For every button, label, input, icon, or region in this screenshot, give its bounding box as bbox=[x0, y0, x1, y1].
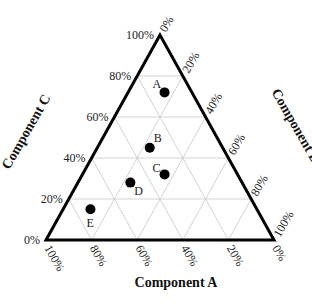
axis-c-tick: 40% bbox=[64, 151, 86, 165]
axis-c-tick: 60% bbox=[86, 110, 108, 124]
axis-a-tick: 20% bbox=[224, 243, 247, 269]
axis-c-tick: 100% bbox=[126, 28, 154, 42]
data-point bbox=[85, 204, 95, 214]
axis-b-tick: 100% bbox=[270, 208, 296, 239]
axis-c-tick: 80% bbox=[109, 69, 131, 83]
axis-a-tick: 40% bbox=[178, 243, 201, 269]
axis-b-tick: 80% bbox=[248, 172, 271, 198]
grid-line bbox=[114, 117, 182, 240]
grid-line bbox=[137, 117, 205, 240]
ternary-chart: 0%20%40%60%80%100%0%20%40%60%80%100%100%… bbox=[0, 0, 312, 304]
axis-b-title: Component B bbox=[269, 86, 312, 165]
grid-line bbox=[228, 199, 251, 240]
axis-b-tick: 40% bbox=[202, 90, 225, 116]
point-label: A bbox=[153, 77, 162, 91]
axis-c-tick: 20% bbox=[41, 192, 63, 206]
point-label: C bbox=[153, 161, 161, 175]
axis-b-tick: 20% bbox=[179, 49, 202, 75]
axis-a-tick: 60% bbox=[133, 243, 156, 269]
axis-a-tick: 100% bbox=[41, 243, 67, 274]
axis-a-tick: 80% bbox=[87, 243, 110, 269]
axis-a-title: Component A bbox=[135, 275, 219, 290]
data-point bbox=[160, 169, 170, 179]
axis-c-title: Component C bbox=[0, 92, 54, 172]
axis-a-tick: 0% bbox=[269, 243, 289, 264]
point-label: D bbox=[134, 184, 143, 198]
point-label: B bbox=[154, 131, 162, 145]
axis-b-tick: 0% bbox=[156, 14, 176, 35]
ternary-plot: 0%20%40%60%80%100%0%20%40%60%80%100%100%… bbox=[0, 0, 312, 304]
axis-b-tick: 60% bbox=[225, 131, 248, 157]
point-label: E bbox=[86, 216, 93, 230]
axis-c-tick: 0% bbox=[24, 233, 40, 247]
